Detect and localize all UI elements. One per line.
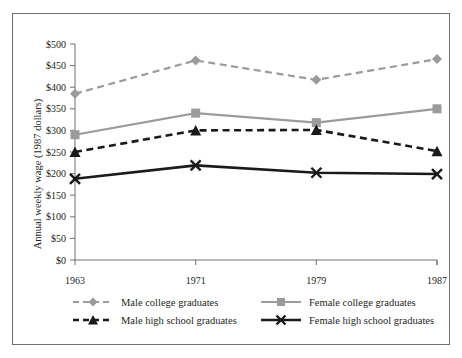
- series-male-high-school-graduates: [70, 124, 443, 157]
- chart-figure-frame: $0$50$100$150$200$250$300$350$400$450$50…: [12, 13, 450, 345]
- legend-label: Female high school graduates: [309, 315, 434, 326]
- square-marker: [433, 104, 442, 113]
- chart-axes: [75, 44, 437, 265]
- x-tick-label: 1987: [427, 275, 447, 286]
- x-tick-label: 1971: [186, 275, 206, 286]
- y-tick-label: $250: [46, 147, 66, 158]
- legend-item-female-high-school-graduates[interactable]: Female high school graduates: [261, 315, 434, 326]
- y-tick-label: $500: [46, 39, 66, 50]
- x-tick-label: 1979: [306, 275, 326, 286]
- square-marker: [71, 130, 80, 139]
- series-line: [75, 109, 437, 135]
- legend-label: Male college graduates: [121, 297, 218, 308]
- y-tick-label: $0: [56, 255, 66, 266]
- diamond-marker: [311, 75, 321, 85]
- y-tick-label: $100: [46, 211, 66, 222]
- y-tick-label: $450: [46, 60, 66, 71]
- y-tick-label: $400: [46, 82, 66, 93]
- y-tick-label: $200: [46, 168, 66, 179]
- diamond-marker: [191, 55, 201, 65]
- legend-item-male-high-school-graduates[interactable]: Male high school graduates: [73, 315, 237, 326]
- series-female-high-school-graduates: [70, 160, 442, 183]
- diamond-marker: [432, 54, 442, 64]
- x-axis-tick-labels: 1963197119791987: [65, 275, 447, 286]
- y-axis-title: Annual weekly wage (1987 dollars): [32, 98, 44, 249]
- legend-label: Male high school graduates: [121, 315, 237, 326]
- y-tick-label: $50: [51, 233, 66, 244]
- square-marker: [191, 109, 200, 118]
- x-tick-label: 1963: [65, 275, 85, 286]
- series-line: [75, 165, 437, 178]
- series-male-college-graduates: [70, 54, 442, 99]
- y-tick-label: $350: [46, 103, 66, 114]
- diamond-marker: [89, 298, 98, 307]
- series-line: [75, 59, 437, 94]
- legend-item-male-college-graduates[interactable]: Male college graduates: [73, 297, 218, 308]
- legend-label: Female college graduates: [309, 297, 416, 308]
- square-marker: [277, 298, 285, 306]
- y-tick-label: $300: [46, 125, 66, 136]
- x-axis-tick-marks: [75, 260, 437, 265]
- diamond-marker: [70, 89, 80, 99]
- series-female-college-graduates: [71, 104, 442, 139]
- line-chart: $0$50$100$150$200$250$300$350$400$450$50…: [13, 14, 451, 346]
- chart-series-group: [70, 54, 443, 184]
- chart-legend: Male college graduatesFemale college gra…: [73, 297, 434, 326]
- series-line: [75, 130, 437, 152]
- legend-item-female-college-graduates[interactable]: Female college graduates: [261, 297, 416, 308]
- y-axis-tick-labels: $0$50$100$150$200$250$300$350$400$450$50…: [46, 39, 66, 266]
- y-tick-label: $150: [46, 190, 66, 201]
